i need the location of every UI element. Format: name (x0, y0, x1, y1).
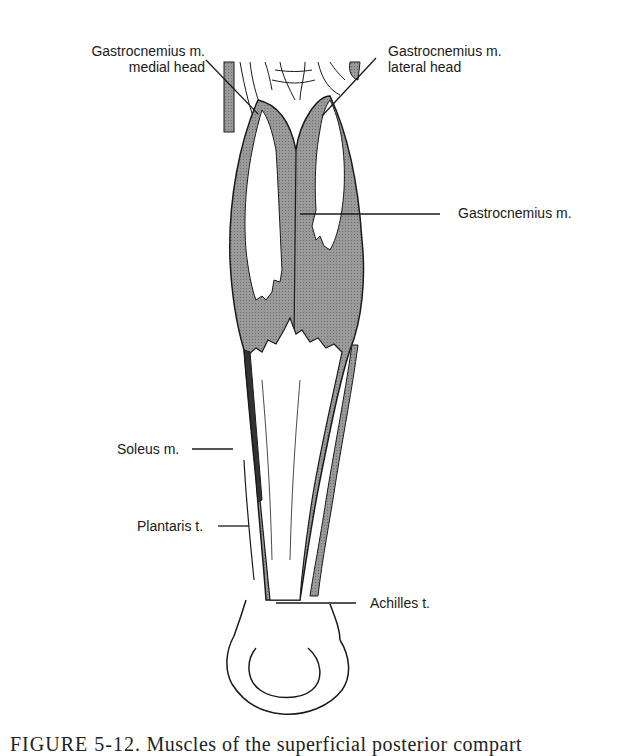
label-gastrocnemius-lateral-line1: Gastrocnemius m. (388, 43, 502, 59)
caption-text: Muscles of the superficial posterior com… (146, 733, 522, 755)
label-gastrocnemius: Gastrocnemius m. (458, 205, 572, 221)
heel-calcaneus (227, 600, 349, 714)
label-gastrocnemius-medial-line1: Gastrocnemius m. (40, 43, 205, 59)
figure-caption: FIGURE 5-12. Muscles of the superficial … (10, 733, 522, 756)
plantaris-tendon (244, 460, 254, 580)
label-achilles: Achilles t. (370, 595, 430, 611)
label-gastrocnemius-lateral-line2: lateral head (388, 59, 502, 75)
label-gastrocnemius-medial-line2: medial head (40, 59, 205, 75)
label-plantaris: Plantaris t. (137, 518, 203, 534)
label-soleus: Soleus m. (117, 441, 179, 457)
caption-figure-number: FIGURE 5-12. (10, 733, 141, 755)
label-gastrocnemius-lateral-head: Gastrocnemius m. lateral head (388, 43, 502, 75)
label-gastrocnemius-medial-head: Gastrocnemius m. medial head (40, 43, 205, 75)
